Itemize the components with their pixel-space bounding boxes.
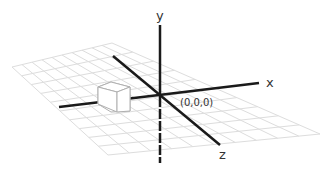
cube — [98, 82, 130, 112]
z-axis-label: z — [219, 147, 226, 162]
coordinate-diagram: y x z (0,0,0) — [0, 0, 330, 172]
grid-line — [108, 134, 320, 155]
origin-label: (0,0,0) — [180, 97, 213, 108]
x-axis-label: x — [266, 75, 274, 90]
y-axis-label: y — [156, 8, 164, 23]
